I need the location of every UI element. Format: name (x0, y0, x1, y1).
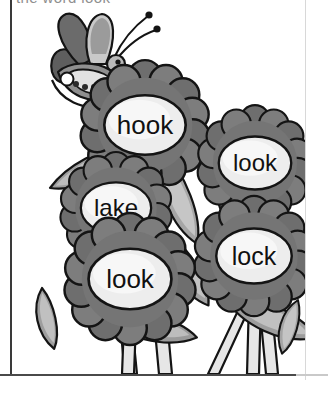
illustration-canvas: hook look lake lock look (12, 0, 305, 374)
flower-word-hook: hook (117, 110, 174, 140)
antenna-icon (114, 12, 160, 60)
bottom-border-rule (0, 374, 328, 376)
flower-word-lock: lock (232, 242, 277, 270)
flower-word-look-top-right: look (233, 149, 278, 176)
flower-word-look-bottom-left: look (106, 264, 155, 294)
worksheet-page: the word look (0, 0, 328, 396)
right-border-rule (305, 0, 306, 380)
bottom-border-rule-light (296, 374, 328, 376)
flower-lock[interactable]: lock (194, 196, 305, 316)
flower-look-bottom-left[interactable]: look (64, 213, 195, 345)
